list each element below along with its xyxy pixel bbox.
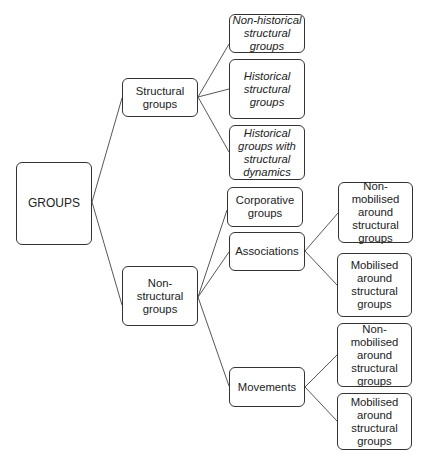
node-label: Non-structural groups bbox=[123, 277, 197, 316]
node-groups: GROUPS bbox=[16, 162, 92, 245]
node-corporative-groups: Corporative groups bbox=[227, 187, 303, 227]
node-label: Mobilised around structural groups bbox=[340, 396, 409, 448]
node-label: Corporative groups bbox=[230, 194, 300, 220]
node-associations-non-mobilised: Non-mobilised around structural groups bbox=[338, 182, 413, 243]
node-label: Mobilised around structural groups bbox=[340, 259, 409, 311]
node-label: Historical groups with structural dynami… bbox=[232, 127, 302, 179]
node-label: Non-mobilised around structural groups bbox=[340, 323, 409, 388]
node-movements-mobilised: Mobilised around structural groups bbox=[337, 393, 412, 450]
node-movements-non-mobilised: Non-mobilised around structural groups bbox=[337, 323, 412, 387]
node-associations-mobilised: Mobilised around structural groups bbox=[337, 253, 412, 317]
node-non-structural-groups: Non-structural groups bbox=[122, 266, 198, 326]
node-non-historical-structural-groups: Non-historical structural groups bbox=[229, 14, 305, 53]
node-label: Non-historical structural groups bbox=[232, 14, 302, 53]
node-label: Structural groups bbox=[125, 85, 195, 111]
node-label: Movements bbox=[238, 381, 296, 394]
node-associations: Associations bbox=[229, 232, 305, 271]
node-label: GROUPS bbox=[28, 197, 80, 210]
node-movements: Movements bbox=[229, 367, 305, 407]
node-historical-structural-groups: Historical structural groups bbox=[229, 59, 305, 119]
node-label: Non-mobilised around structural groups bbox=[341, 180, 410, 245]
node-label: Associations bbox=[235, 245, 298, 258]
node-historical-groups-structural-dynamics: Historical groups with structural dynami… bbox=[229, 125, 305, 180]
node-structural-groups: Structural groups bbox=[122, 78, 198, 117]
node-label: Historical structural groups bbox=[232, 70, 302, 109]
